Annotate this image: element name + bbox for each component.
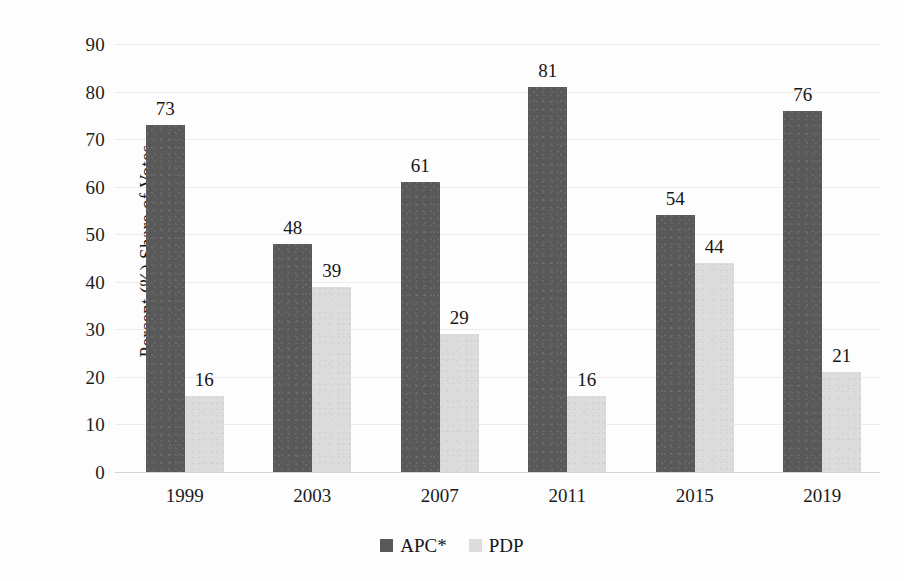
y-axis-tick-10: 10 [59,415,105,434]
x-axis-tick-2011: 2011 [507,486,627,505]
y-axis-tick-0: 0 [59,463,105,482]
bar-PDP-2003 [312,287,351,472]
x-axis-tick-2015: 2015 [635,486,755,505]
legend-item-PDP[interactable]: PDP [469,536,524,555]
y-axis-tick-70: 70 [59,130,105,149]
bar-value-label: 16 [557,370,617,389]
gridline [115,234,880,235]
axis-baseline [115,472,880,473]
gridline [115,424,880,425]
bar-value-label: 39 [302,261,362,280]
gridline [115,329,880,330]
legend-swatch-icon [469,539,482,552]
bar-value-label: 76 [773,85,833,104]
bar-value-label: 21 [812,346,872,365]
y-axis-tick-80: 80 [59,83,105,102]
legend-item-APC[interactable]: APC* [380,536,446,555]
bar-APC-1999 [146,125,185,472]
bar-APC-2019 [783,111,822,472]
bar-PDP-2019 [822,372,861,472]
y-axis-tick-90: 90 [59,35,105,54]
legend-label: PDP [489,536,524,555]
bar-PDP-1999 [185,396,224,472]
bar-PDP-2011 [567,396,606,472]
bar-value-label: 29 [429,308,489,327]
bar-value-label: 73 [135,99,195,118]
bar-value-label: 81 [518,61,578,80]
y-axis-tick-60: 60 [59,178,105,197]
bar-value-label: 54 [645,189,705,208]
legend: APC*PDP [0,536,904,555]
y-axis-tick-30: 30 [59,320,105,339]
gridline [115,282,880,283]
bar-APC-2011 [528,87,567,472]
x-axis-tick-2019: 2019 [762,486,882,505]
gridline [115,187,880,188]
legend-label: APC* [400,536,446,555]
bar-PDP-2007 [440,334,479,472]
bar-value-label: 44 [684,237,744,256]
y-axis-tick-50: 50 [59,225,105,244]
y-axis-tick-20: 20 [59,368,105,387]
x-axis-tick-2003: 2003 [252,486,372,505]
bar-value-label: 48 [263,218,323,237]
legend-swatch-icon [380,539,393,552]
gridline [115,92,880,93]
x-axis-tick-2007: 2007 [380,486,500,505]
bar-value-label: 61 [390,156,450,175]
bar-PDP-2015 [695,263,734,472]
bar-value-label: 16 [174,370,234,389]
gridline [115,139,880,140]
bar-chart: Percent (%) Share of Votes 7316483961298… [0,0,904,581]
y-axis-tick-40: 40 [59,273,105,292]
gridline [115,44,880,45]
plot-area: Percent (%) Share of Votes 7316483961298… [115,44,880,472]
x-axis-tick-1999: 1999 [125,486,245,505]
